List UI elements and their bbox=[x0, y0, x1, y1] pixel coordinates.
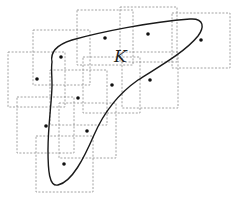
center-point bbox=[59, 55, 63, 59]
center-point bbox=[110, 83, 114, 87]
center-point bbox=[85, 129, 89, 133]
set-k-boundary bbox=[48, 19, 202, 185]
center-point bbox=[76, 96, 80, 100]
covering-diagram: K bbox=[0, 0, 232, 198]
center-point bbox=[103, 36, 107, 40]
center-point bbox=[44, 124, 48, 128]
center-point bbox=[62, 162, 66, 166]
center-point bbox=[148, 78, 152, 82]
center-point bbox=[35, 77, 39, 81]
set-label-k: K bbox=[113, 46, 128, 66]
center-point bbox=[146, 32, 150, 36]
covering-squares bbox=[8, 7, 230, 192]
center-point bbox=[199, 38, 203, 42]
